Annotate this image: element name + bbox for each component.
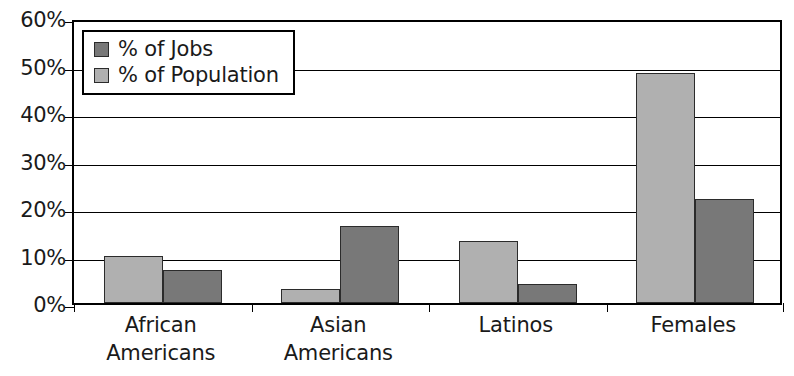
x-axis-category-line: African [72,312,250,340]
category-tick [783,303,784,312]
y-tick-mark [65,117,74,118]
y-tick-label: 60% [4,10,66,31]
legend-swatch-icon [94,68,109,83]
y-tick-mark [65,260,74,261]
x-axis-category-line: Latinos [427,312,605,340]
y-tick-label: 0% [4,295,66,316]
bar [281,289,340,303]
x-axis-category-label: Females [605,312,783,340]
legend: % of Jobs% of Population [82,30,295,95]
y-axis: 0%10%20%30%40%50%60% [0,0,66,376]
x-axis-category-line: Asian [250,312,428,340]
x-axis-category-label: Latinos [427,312,605,340]
y-tick-label: 40% [4,105,66,126]
y-tick-mark [65,22,74,23]
x-axis-category-label: AsianAmericans [250,312,428,367]
bar [695,199,754,304]
category-tick [74,303,75,312]
x-axis-category-label: AfricanAmericans [72,312,250,367]
legend-label: % of Population [118,65,279,86]
legend-swatch-icon [94,42,109,57]
bar [104,256,163,304]
x-axis-category-line: Americans [250,340,428,368]
bar [163,270,222,303]
legend-label: % of Jobs [118,39,213,60]
y-tick-mark [65,165,74,166]
y-tick-label: 20% [4,200,66,221]
bar-chart: 0%10%20%30%40%50%60% % of Jobs% of Popul… [0,0,794,376]
category-tick [607,303,608,312]
category-tick [429,303,430,312]
bar [518,284,577,303]
category-tick [252,303,253,312]
y-tick-mark [65,307,74,308]
legend-item: % of Population [94,62,279,88]
y-tick-label: 10% [4,247,66,268]
bar [340,226,399,303]
x-axis-category-line: Females [605,312,783,340]
bar [636,73,695,303]
plot-area: % of Jobs% of Population [72,20,782,305]
y-tick-label: 30% [4,152,66,173]
y-tick-mark [65,212,74,213]
bar [459,241,518,303]
x-axis-category-line: Americans [72,340,250,368]
y-tick-mark [65,70,74,71]
y-tick-label: 50% [4,57,66,78]
x-axis: AfricanAmericansAsianAmericansLatinosFem… [72,312,782,374]
legend-item: % of Jobs [94,36,279,62]
